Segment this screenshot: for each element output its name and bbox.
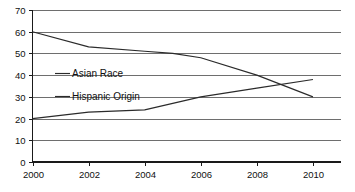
x-tick-label-2006: 2006 — [191, 169, 212, 180]
y-tick-label-20: 20 — [15, 114, 26, 125]
chart-canvas: 010203040506070 200020022004200620082010… — [0, 0, 355, 192]
y-tick-label-60: 60 — [15, 27, 26, 38]
legend-label-asian-race: Asian Race — [72, 68, 124, 79]
line-chart: 010203040506070 200020022004200620082010… — [0, 0, 355, 192]
y-tick-label-30: 30 — [15, 92, 26, 103]
x-tick-label-2000: 2000 — [23, 169, 44, 180]
y-tick-label-10: 10 — [15, 135, 26, 146]
x-tick-label-2010: 2010 — [303, 169, 324, 180]
x-tick-label-2008: 2008 — [247, 169, 268, 180]
x-tick-label-2004: 2004 — [135, 169, 156, 180]
chart-background — [0, 0, 355, 192]
x-tick-label-2002: 2002 — [79, 169, 100, 180]
y-tick-label-70: 70 — [15, 5, 26, 16]
y-tick-label-50: 50 — [15, 48, 26, 59]
y-tick-label-0: 0 — [20, 157, 25, 168]
legend-label-hispanic-origin: Hispanic Origin — [72, 91, 140, 102]
y-tick-label-40: 40 — [15, 70, 26, 81]
